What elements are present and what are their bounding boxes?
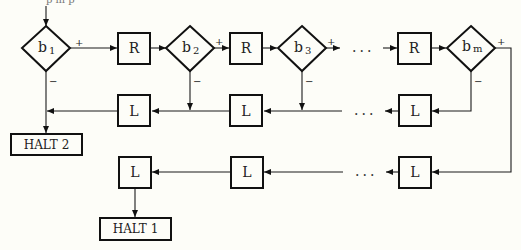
arrow-bm-minus-to-row1 [432, 71, 471, 111]
plus-sign: + [497, 36, 505, 47]
move-right-r1: R [118, 33, 150, 64]
move-right-r2: R [230, 33, 262, 64]
minus-sign: − [193, 76, 201, 87]
move-left-row2-m: L [399, 157, 431, 188]
move-left-row1-a: L [118, 95, 150, 126]
decision-subscript: m [473, 43, 483, 54]
halt-label: HALT 1 [113, 222, 159, 236]
move-left-row2-b: L [231, 157, 263, 188]
box-label: L [130, 164, 139, 180]
minus-sign: − [474, 76, 482, 87]
flowchart: p m p ... ... ... b 1 + − b 2 + − [0, 0, 521, 250]
box-label: R [409, 40, 420, 56]
decision-subscript: 2 [193, 45, 199, 56]
top-text-fragment: p m p [46, 0, 75, 5]
ellipsis-row2: ... [355, 163, 377, 179]
decision-subscript: 3 [305, 45, 311, 56]
move-right-rm: R [398, 33, 431, 64]
halt-1-box: HALT 1 [100, 218, 171, 240]
plus-sign: + [215, 36, 223, 47]
move-left-row1-m: L [399, 95, 431, 126]
box-label: L [241, 103, 250, 119]
halt-label: HALT 2 [24, 138, 70, 152]
minus-sign: − [49, 76, 57, 87]
decision-b1: b 1 + − [22, 26, 83, 87]
box-label: L [410, 164, 419, 180]
ellipsis-top: ... [352, 39, 374, 55]
box-label: L [410, 103, 419, 119]
minus-sign: − [305, 76, 313, 87]
plus-sign: + [327, 36, 335, 47]
halt-2-box: HALT 2 [11, 134, 82, 155]
decision-label: b [462, 38, 471, 54]
decision-label: b [294, 39, 303, 55]
decision-label: b [182, 39, 191, 55]
box-label: R [129, 40, 140, 56]
move-left-row2-a: L [119, 157, 151, 188]
decision-label: b [38, 39, 47, 55]
box-label: L [242, 164, 251, 180]
plus-sign: + [75, 37, 83, 48]
decision-b3: b 3 + − [278, 26, 335, 87]
decision-b2: b 2 + − [166, 26, 223, 87]
decision-bm: b m + − [447, 26, 505, 87]
box-label: L [129, 103, 138, 119]
decision-subscript: 1 [49, 45, 55, 56]
move-left-row1-b: L [230, 95, 262, 126]
ellipsis-row1: ... [354, 102, 376, 118]
box-label: R [241, 40, 252, 56]
